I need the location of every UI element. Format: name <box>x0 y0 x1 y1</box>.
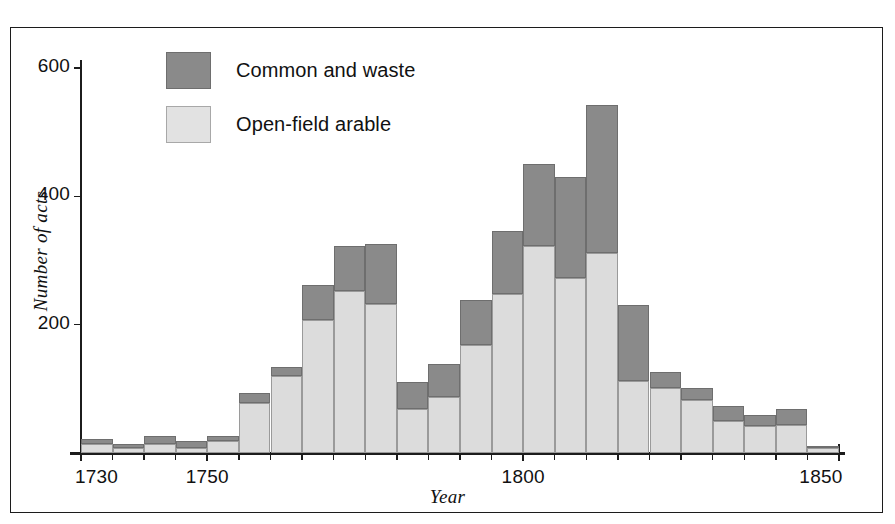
bar-segment-common-and-waste-1765 <box>302 285 334 320</box>
x-tick-1785 <box>428 452 429 460</box>
x-tick-1810 <box>586 452 587 460</box>
bar-segment-open-field-arable-1770 <box>334 291 366 453</box>
bar-segment-open-field-arable-1795 <box>492 294 524 453</box>
bar-1835 <box>744 415 776 454</box>
bar-1770 <box>334 246 366 453</box>
bar-segment-common-and-waste-1820 <box>650 372 682 387</box>
x-tick-1795 <box>491 452 492 460</box>
bar-1740 <box>144 436 176 453</box>
bar-1785 <box>428 364 460 453</box>
bar-segment-open-field-arable-1800 <box>523 246 555 453</box>
bar-segment-common-and-waste-1780 <box>397 382 429 409</box>
bar-segment-open-field-arable-1745 <box>176 448 208 453</box>
plot-area: Number of acts Year 200400600 1730175018… <box>0 0 895 524</box>
bar-segment-common-and-waste-1805 <box>555 177 587 278</box>
bar-segment-common-and-waste-1760 <box>271 367 303 376</box>
x-tick-1815 <box>617 452 618 460</box>
legend-item-open-field-arable: Open-field arable <box>166 106 415 143</box>
bar-segment-common-and-waste-1755 <box>239 393 271 403</box>
bar-1805 <box>555 177 587 453</box>
bar-1830 <box>713 406 745 453</box>
bar-1755 <box>239 393 271 453</box>
x-tick-1820 <box>649 452 650 460</box>
x-tick-1765 <box>301 452 302 460</box>
bar-segment-open-field-arable-1815 <box>618 381 650 453</box>
bar-segment-open-field-arable-1750 <box>207 441 239 453</box>
legend-label-open-field-arable: Open-field arable <box>236 113 391 136</box>
x-tick-1805 <box>554 452 555 460</box>
bar-segment-common-and-waste-1825 <box>681 388 713 401</box>
x-tick-1745 <box>175 452 176 460</box>
bar-segment-open-field-arable-1730 <box>81 444 113 453</box>
legend-item-common-and-waste: Common and waste <box>166 52 415 89</box>
bar-segment-open-field-arable-1780 <box>397 409 429 453</box>
bar-segment-open-field-arable-1825 <box>681 400 713 453</box>
bar-1790 <box>460 300 492 453</box>
bar-segment-open-field-arable-1755 <box>239 403 271 453</box>
bar-1765 <box>302 285 334 453</box>
bar-segment-open-field-arable-1805 <box>555 278 587 453</box>
bar-1745 <box>176 441 208 453</box>
y-tick-label-400: 400 <box>38 183 70 205</box>
x-tick-label-1850: 1850 <box>799 466 842 488</box>
bar-segment-open-field-arable-1785 <box>428 397 460 453</box>
bar-1845 <box>807 446 839 453</box>
bar-segment-common-and-waste-1835 <box>744 415 776 427</box>
x-tick-1755 <box>238 452 239 460</box>
x-tick-1835 <box>744 452 745 460</box>
bar-segment-open-field-arable-1845 <box>807 448 839 453</box>
bar-segment-common-and-waste-1775 <box>365 244 397 304</box>
x-tick-1780 <box>396 452 397 460</box>
y-tick-200 <box>74 324 81 326</box>
bar-1775 <box>365 244 397 453</box>
x-tick-1825 <box>680 452 681 460</box>
bar-1810 <box>586 105 618 453</box>
y-tick-label-200: 200 <box>38 312 70 334</box>
y-tick-600 <box>74 67 81 69</box>
x-tick-1830 <box>712 452 713 460</box>
x-tick-1735 <box>112 452 113 460</box>
bar-segment-open-field-arable-1765 <box>302 320 334 453</box>
bar-segment-common-and-waste-1785 <box>428 364 460 396</box>
legend-label-common-and-waste: Common and waste <box>236 59 415 82</box>
bar-segment-open-field-arable-1790 <box>460 345 492 453</box>
bar-segment-common-and-waste-1815 <box>618 305 650 381</box>
bar-segment-open-field-arable-1810 <box>586 253 618 453</box>
bar-1795 <box>492 231 524 453</box>
bar-1820 <box>650 372 682 453</box>
bar-segment-common-and-waste-1740 <box>144 436 176 444</box>
bar-segment-common-and-waste-1790 <box>460 300 492 345</box>
bar-1730 <box>81 439 113 453</box>
bar-segment-open-field-arable-1735 <box>113 448 145 453</box>
bar-segment-common-and-waste-1770 <box>334 246 366 291</box>
bar-1825 <box>681 388 713 453</box>
bar-1750 <box>207 436 239 453</box>
x-tick-label-1800: 1800 <box>502 466 545 488</box>
bar-segment-open-field-arable-1775 <box>365 304 397 453</box>
x-axis-title: Year <box>0 486 895 508</box>
x-tick-1770 <box>333 452 334 460</box>
bar-segment-open-field-arable-1760 <box>271 376 303 453</box>
bar-segment-open-field-arable-1740 <box>144 444 176 453</box>
bar-1760 <box>271 367 303 453</box>
bar-segment-common-and-waste-1840 <box>776 409 808 424</box>
bar-segment-common-and-waste-1795 <box>492 231 524 294</box>
x-tick-1760 <box>270 452 271 460</box>
bar-segment-common-and-waste-1830 <box>713 406 745 421</box>
x-tick-1775 <box>365 452 366 460</box>
legend-swatch-icon-dark <box>166 52 211 89</box>
bar-segment-open-field-arable-1820 <box>650 388 682 453</box>
chart-figure: Number of acts Year 200400600 1730175018… <box>0 0 895 524</box>
bar-1800 <box>523 164 555 453</box>
x-tick-1740 <box>143 452 144 460</box>
bar-segment-open-field-arable-1840 <box>776 425 808 453</box>
bar-1735 <box>113 444 145 453</box>
bar-segment-common-and-waste-1810 <box>586 105 618 253</box>
bar-segment-open-field-arable-1835 <box>744 426 776 453</box>
y-tick-label-600: 600 <box>38 55 70 77</box>
bar-1780 <box>397 382 429 453</box>
bar-1840 <box>776 409 808 453</box>
x-tick-label-1730: 1730 <box>75 466 118 488</box>
legend-swatch-icon-light <box>166 106 211 143</box>
x-tick-1840 <box>775 452 776 460</box>
